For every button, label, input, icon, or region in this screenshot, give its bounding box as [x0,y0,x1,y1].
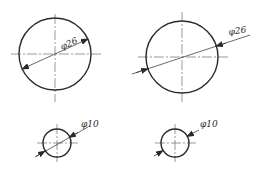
diameter-label: φ10 [200,119,218,129]
view-bottom-left: φ10 [35,119,99,162]
diameter-arrow [187,130,199,137]
dimension-drawing: φ26 φ26 φ10 φ10 [0,0,260,176]
diameter-label: φ10 [81,119,99,129]
diameter-dimension-line [22,54,55,69]
diameter-arrow [69,133,78,138]
diameter-arrow [136,69,148,73]
diameter-arrow [154,151,163,157]
diameter-arrow [216,43,226,46]
diameter-label: φ26 [59,35,80,51]
diameter-arrow [36,151,45,157]
diameter-label: φ26 [228,25,247,37]
view-bottom-right: φ10 [154,119,218,162]
view-top-right: φ26 [132,12,250,104]
view-top-left: φ26 [11,14,101,102]
